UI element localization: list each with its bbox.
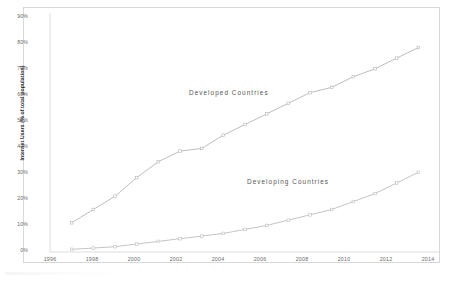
x-tick-1996: 1996 (35, 256, 65, 262)
data-point-marker (200, 147, 203, 150)
data-point-marker (417, 171, 420, 174)
x-tick-1998: 1998 (77, 256, 107, 262)
series-layer (70, 46, 419, 250)
data-point-marker (265, 113, 268, 116)
data-point-marker (157, 160, 160, 163)
data-point-marker (179, 237, 182, 240)
data-point-marker (200, 235, 203, 238)
page-artifact (5, 272, 125, 275)
series-label-developed: Developed Countries (189, 89, 269, 96)
data-point-marker (330, 86, 333, 89)
series-developed (70, 46, 419, 224)
series-label-developing: Developing Countries (247, 178, 329, 185)
x-tick-2014: 2014 (413, 256, 443, 262)
data-point-marker (417, 46, 420, 49)
data-point-marker (114, 245, 117, 248)
series-developing (70, 171, 419, 251)
series-line (72, 172, 419, 249)
data-point-marker (244, 228, 247, 231)
data-point-marker (135, 176, 138, 179)
x-tick-2002: 2002 (161, 256, 191, 262)
data-point-marker (309, 91, 312, 94)
data-point-marker (395, 182, 398, 185)
y-tick-40: 40% (2, 143, 28, 149)
data-point-marker (92, 247, 95, 250)
y-tick-70: 70% (2, 65, 28, 71)
data-point-marker (287, 219, 290, 222)
x-tick-2006: 2006 (245, 256, 275, 262)
y-tick-80: 80% (2, 39, 28, 45)
data-point-marker (70, 221, 73, 224)
y-tick-10: 10% (2, 221, 28, 227)
plot-svg (0, 0, 465, 281)
data-point-marker (222, 134, 225, 137)
line-chart: Internet Users (% of total population) 9… (0, 0, 465, 281)
y-tick-30: 30% (2, 169, 28, 175)
data-point-marker (309, 214, 312, 217)
x-tick-2010: 2010 (329, 256, 359, 262)
y-tick-0: 0% (2, 247, 28, 253)
data-point-marker (330, 208, 333, 211)
x-tick-2012: 2012 (371, 256, 401, 262)
x-tick-2000: 2000 (119, 256, 149, 262)
y-tick-60: 60% (2, 91, 28, 97)
data-point-marker (179, 150, 182, 153)
data-point-marker (157, 240, 160, 243)
data-point-marker (352, 75, 355, 78)
data-point-marker (135, 243, 138, 246)
x-tick-2008: 2008 (287, 256, 317, 262)
data-point-marker (395, 57, 398, 60)
data-point-marker (244, 123, 247, 126)
data-point-marker (222, 232, 225, 235)
data-point-marker (287, 102, 290, 105)
y-tick-90: 90% (2, 13, 28, 19)
data-point-marker (114, 195, 117, 198)
data-point-marker (92, 208, 95, 211)
y-tick-50: 50% (2, 117, 28, 123)
y-tick-20: 20% (2, 195, 28, 201)
data-point-marker (374, 192, 377, 195)
data-point-marker (70, 248, 73, 251)
data-point-marker (352, 200, 355, 203)
data-point-marker (265, 224, 268, 227)
data-point-marker (374, 67, 377, 70)
x-tick-2004: 2004 (203, 256, 233, 262)
